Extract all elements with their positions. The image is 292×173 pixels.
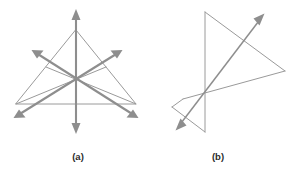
figure-root: (a) (b) xyxy=(0,0,292,173)
figure-b-caption: (b) xyxy=(212,151,224,162)
figure-a-caption: (a) xyxy=(72,151,84,162)
canvas-background xyxy=(0,0,292,173)
vector-diagram-canvas: (a) (b) xyxy=(0,0,292,173)
